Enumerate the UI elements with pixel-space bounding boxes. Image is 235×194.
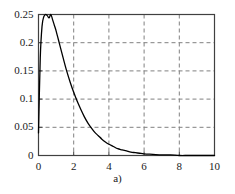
x-axis-tick-label: 4 xyxy=(89,161,129,172)
x-axis-tick-label: 8 xyxy=(159,161,199,172)
figure-caption: a) xyxy=(0,172,235,184)
y-axis-tick-label: 0.25 xyxy=(14,9,33,20)
y-axis-tick-label: 0.1 xyxy=(20,93,34,104)
y-axis-tick-label: 0.05 xyxy=(14,121,33,132)
x-axis-tick-label: 0 xyxy=(19,161,59,172)
y-axis-tick-label: 0.15 xyxy=(14,65,33,76)
gridlines xyxy=(39,15,215,156)
y-axis-tick-label: 0.2 xyxy=(20,37,34,48)
plot-frame xyxy=(39,15,215,156)
x-axis-tick-label: 10 xyxy=(195,161,235,172)
x-axis-tick-label: 2 xyxy=(54,161,94,172)
data-curve xyxy=(39,14,215,155)
y-axis-tick-label: 0 xyxy=(28,150,34,161)
figure-panel: a) 00.050.10.150.20.250246810 xyxy=(0,0,235,194)
x-axis-tick-label: 6 xyxy=(124,161,164,172)
axis-ticks xyxy=(39,15,215,156)
